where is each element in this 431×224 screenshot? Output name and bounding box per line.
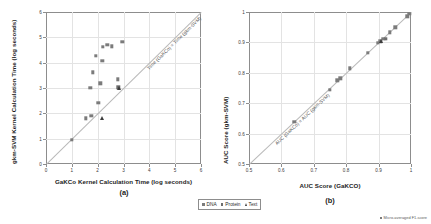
y-axis-tick-label: 1 bbox=[232, 10, 245, 15]
y-axis-tick bbox=[246, 103, 249, 104]
y-axis-tick bbox=[246, 73, 249, 74]
x-axis-tick bbox=[379, 164, 380, 167]
figure-container: Time (GaKCo) = Time (gkm-SVM) 0123456012… bbox=[0, 0, 431, 224]
gridline-horizontal bbox=[249, 42, 411, 43]
legend-label: Text bbox=[249, 202, 258, 207]
gridline-horizontal bbox=[46, 113, 201, 114]
data-point-text bbox=[100, 116, 104, 120]
y-axis-tick-label: 1 bbox=[29, 136, 42, 141]
data-point-protein bbox=[384, 37, 387, 40]
y-axis-tick-label: 0.5 bbox=[232, 162, 245, 167]
x-axis-tick-label: 0.9 bbox=[375, 168, 382, 173]
y-axis-tick-label: 4 bbox=[29, 60, 42, 65]
data-point-text bbox=[117, 86, 121, 90]
gridline-vertical bbox=[314, 12, 315, 164]
data-point-dna bbox=[89, 86, 92, 89]
y-axis-tick bbox=[43, 139, 46, 140]
data-point-dna bbox=[101, 59, 104, 62]
data-point-dna bbox=[101, 45, 104, 48]
data-point-dna bbox=[116, 77, 119, 80]
data-point-dna bbox=[70, 138, 73, 141]
panel-label-b: (b) bbox=[325, 196, 334, 205]
x-axis-title-a: GaKCo Kernel Calculation Time (log secon… bbox=[55, 178, 192, 185]
y-axis-tick-label: 3 bbox=[29, 86, 42, 91]
y-axis-tick-label: 0 bbox=[29, 162, 42, 167]
x-axis-tick-label: 0.6 bbox=[278, 168, 285, 173]
panel-b: AUC (GaKCo) = AUC (gkm-SVM) 0.50.60.70.8… bbox=[216, 0, 431, 224]
x-axis-tick bbox=[249, 164, 250, 167]
y-axis-tick bbox=[43, 63, 46, 64]
x-axis-tick bbox=[281, 164, 282, 167]
x-axis-tick-label: 1 bbox=[410, 168, 413, 173]
footnote: Micro-averaged F1-score bbox=[380, 215, 427, 220]
x-axis-tick bbox=[46, 164, 47, 167]
legend-label: Protein bbox=[225, 202, 240, 207]
x-axis-tick-label: 6 bbox=[200, 168, 203, 173]
data-point-text bbox=[379, 39, 383, 43]
x-axis-tick-label: 3 bbox=[122, 168, 125, 173]
y-axis-tick-label: 0.8 bbox=[232, 70, 245, 75]
data-point-dna bbox=[91, 71, 94, 74]
x-axis-tick-label: 0.5 bbox=[246, 168, 253, 173]
data-point-dna bbox=[110, 44, 113, 47]
y-axis-tick-label: 0.9 bbox=[232, 40, 245, 45]
data-point-dna bbox=[408, 12, 411, 15]
panel-label-a: (a) bbox=[119, 188, 128, 197]
x-axis-tick bbox=[411, 164, 412, 167]
legend-label: DNA bbox=[207, 202, 217, 207]
y-axis-tick bbox=[246, 134, 249, 135]
x-axis-tick-label: 2 bbox=[96, 168, 99, 173]
legend[interactable]: DNAProteinText bbox=[198, 199, 261, 210]
x-axis-tick bbox=[149, 164, 150, 167]
y-axis-tick-label: 6 bbox=[29, 10, 42, 15]
y-axis-tick bbox=[246, 164, 249, 165]
data-point-dna bbox=[366, 51, 369, 54]
x-axis-tick bbox=[175, 164, 176, 167]
x-axis-tick-label: 4 bbox=[148, 168, 151, 173]
y-axis-tick-label: 2 bbox=[29, 111, 42, 116]
data-point-dna bbox=[328, 88, 331, 91]
data-point-dna bbox=[293, 120, 296, 123]
x-axis-tick-label: 1 bbox=[71, 168, 74, 173]
y-axis-title-b: AUC Score (gkm-SVM) bbox=[222, 97, 229, 164]
legend-item-text[interactable]: Text bbox=[245, 202, 258, 207]
data-point-dna bbox=[339, 77, 342, 80]
data-point-dna bbox=[388, 31, 391, 34]
y-axis-tick bbox=[43, 113, 46, 114]
y-axis-tick bbox=[246, 42, 249, 43]
legend-marker-square-icon bbox=[221, 203, 224, 206]
data-point-dna bbox=[99, 82, 102, 85]
x-axis-tick bbox=[72, 164, 73, 167]
legend-item-protein[interactable]: Protein bbox=[221, 202, 241, 207]
legend-marker-triangle-icon bbox=[245, 203, 247, 206]
x-axis-tick bbox=[98, 164, 99, 167]
legend-item-dna[interactable]: DNA bbox=[202, 202, 217, 207]
x-axis-title-b: AUC Score (GaKCO) bbox=[299, 182, 360, 189]
y-axis-tick bbox=[246, 12, 249, 13]
legend-marker-square-icon bbox=[202, 203, 205, 206]
x-axis-tick bbox=[124, 164, 125, 167]
gridline-horizontal bbox=[249, 103, 411, 104]
x-axis-tick-label: 0.8 bbox=[343, 168, 350, 173]
footnote-label: Micro-averaged F1-score bbox=[384, 215, 427, 220]
x-axis-tick-label: 5 bbox=[174, 168, 177, 173]
data-point-dna bbox=[394, 25, 397, 28]
y-axis-tick bbox=[43, 88, 46, 89]
x-axis-tick-label: 0 bbox=[45, 168, 48, 173]
y-axis-title-a: gkm-SVM Kernel Calculation Time (log sec… bbox=[10, 20, 17, 164]
data-point-dna bbox=[90, 114, 93, 117]
gridline-horizontal bbox=[249, 134, 411, 135]
x-axis-tick bbox=[201, 164, 202, 167]
gridline-vertical bbox=[346, 12, 347, 164]
y-axis-tick bbox=[43, 12, 46, 13]
y-axis-tick-label: 0.6 bbox=[232, 131, 245, 136]
x-axis-tick bbox=[314, 164, 315, 167]
gridline-horizontal bbox=[46, 63, 201, 64]
x-axis-tick-label: 0.7 bbox=[310, 168, 317, 173]
gridline-horizontal bbox=[249, 73, 411, 74]
x-axis-tick bbox=[346, 164, 347, 167]
gridline-vertical bbox=[379, 12, 380, 164]
data-point-dna bbox=[94, 54, 97, 57]
y-axis-tick-label: 5 bbox=[29, 35, 42, 40]
data-point-dna bbox=[96, 101, 99, 104]
